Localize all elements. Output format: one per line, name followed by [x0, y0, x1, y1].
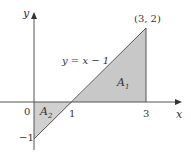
equation-label: y = x − 1 [61, 55, 109, 66]
x-axis-arrow-icon [175, 99, 182, 105]
point-label: (3, 2) [134, 13, 161, 24]
x-axis-label: x [176, 108, 183, 121]
tick-origin-label: 0 [24, 106, 30, 117]
diagram-canvas: y x (3, 2) y = x − 1 0 1 3 −1 A1 A2 [0, 0, 191, 156]
y-axis-arrow-icon [31, 12, 37, 19]
tick-neg-one-label: −1 [19, 132, 34, 143]
tick-one-label: 1 [69, 108, 75, 119]
y-axis-label: y [22, 7, 30, 20]
tick-three-label: 3 [143, 108, 149, 119]
